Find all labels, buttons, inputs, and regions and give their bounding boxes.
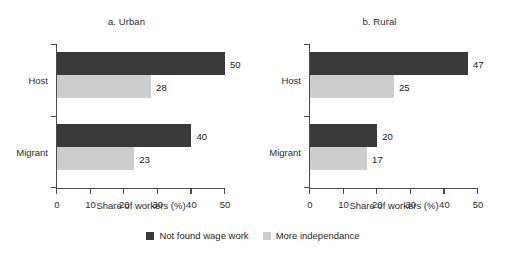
bar-urban-migrant-more-independance <box>57 147 134 170</box>
x-tick-10 <box>90 188 91 194</box>
y-tick-mid <box>304 116 310 117</box>
y-tick-mid <box>51 116 57 117</box>
bar-rural-migrant-more-independance <box>310 147 367 170</box>
x-tick-0 <box>56 188 57 194</box>
x-tick-20 <box>123 188 124 194</box>
x-tick-40 <box>443 188 444 194</box>
bar-value-urban-migrant-dark: 40 <box>196 130 207 141</box>
panel-row: a. Urban Host Migrant 0 10 20 30 <box>0 0 506 222</box>
x-tick-10 <box>343 188 344 194</box>
x-tick-30 <box>410 188 411 194</box>
panel-title-rural: b. Rural <box>253 16 506 27</box>
x-tick-20 <box>376 188 377 194</box>
x-axis-line <box>56 188 225 189</box>
legend-label: More independance <box>276 230 360 241</box>
plot-area-urban: Host Migrant 0 10 20 30 40 50 50 2 <box>57 44 225 188</box>
y-axis-label-host: Host <box>28 75 48 86</box>
grouped-bar-chart-figure: a. Urban Host Migrant 0 10 20 30 <box>0 0 506 259</box>
bar-urban-host-more-independance <box>57 75 151 98</box>
legend-swatch-icon <box>146 232 154 240</box>
plot-area-rural: Host Migrant 0 10 20 30 40 50 47 2 <box>310 44 478 188</box>
y-tick-top <box>304 44 310 45</box>
bar-value-urban-host-light: 28 <box>156 81 167 92</box>
panel-urban: a. Urban Host Migrant 0 10 20 30 <box>0 0 253 222</box>
y-tick-top <box>51 44 57 45</box>
y-axis-label-migrant: Migrant <box>269 147 301 158</box>
x-tick-50 <box>477 188 478 194</box>
bar-value-rural-migrant-dark: 20 <box>382 130 393 141</box>
bar-rural-migrant-not-found-wage-work <box>310 124 377 147</box>
bar-rural-host-not-found-wage-work <box>310 52 468 75</box>
x-axis-title-urban: Share of workers (%) <box>57 200 225 211</box>
panel-title-urban: a. Urban <box>0 16 253 27</box>
x-tick-30 <box>157 188 158 194</box>
legend-swatch-icon <box>263 232 271 240</box>
legend-label: Not found wage work <box>159 230 248 241</box>
bar-rural-host-more-independance <box>310 75 394 98</box>
bar-value-rural-host-light: 25 <box>399 81 410 92</box>
bar-value-urban-migrant-light: 23 <box>139 153 150 164</box>
x-tick-40 <box>190 188 191 194</box>
legend-item-more-independance: More independance <box>263 230 360 241</box>
x-axis-line <box>309 188 478 189</box>
legend-item-not-found-wage-work: Not found wage work <box>146 230 248 241</box>
bar-value-urban-host-dark: 50 <box>230 58 241 69</box>
bar-value-rural-migrant-light: 17 <box>372 153 383 164</box>
bar-urban-migrant-not-found-wage-work <box>57 124 191 147</box>
bar-value-rural-host-dark: 47 <box>473 58 484 69</box>
x-tick-0 <box>309 188 310 194</box>
x-axis-title-rural: Share of workers (%) <box>310 200 478 211</box>
bar-urban-host-not-found-wage-work <box>57 52 225 75</box>
y-axis-label-host: Host <box>281 75 301 86</box>
x-tick-50 <box>224 188 225 194</box>
y-axis-label-migrant: Migrant <box>16 147 48 158</box>
panel-rural: b. Rural Host Migrant 0 10 20 30 <box>253 0 506 222</box>
chart-legend: Not found wage work More independance <box>0 230 506 241</box>
